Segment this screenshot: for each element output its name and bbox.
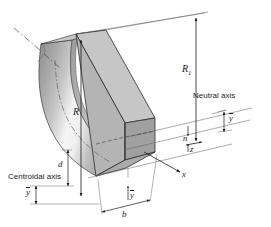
label-y-right-letter: y bbox=[229, 113, 233, 123]
label-d: d bbox=[58, 160, 63, 169]
dimension-ybar-left bbox=[30, 186, 100, 204]
label-n: n bbox=[183, 134, 187, 143]
label-z: z bbox=[190, 145, 193, 154]
axis-x-arrow bbox=[144, 152, 180, 172]
label-R1: R1 bbox=[182, 64, 192, 77]
label-ybar-bottom: y bbox=[130, 191, 134, 200]
label-ybar-bottom-letter: y bbox=[130, 190, 134, 200]
label-x: x bbox=[182, 170, 186, 179]
leader-top-inner bbox=[76, 13, 205, 34]
label-y-right: y bbox=[229, 114, 233, 123]
label-neutral-axis: Neutral axis bbox=[193, 92, 235, 100]
label-b: b bbox=[122, 210, 127, 219]
label-centroidal-axis: Centroidal axis bbox=[8, 173, 61, 181]
curved-beam-figure: R1 R Neutral axis Centroidal axis n z x … bbox=[0, 0, 271, 227]
label-ybar-left: y bbox=[26, 188, 30, 197]
axis-z-arrow bbox=[186, 142, 202, 145]
label-ybar-left-letter: y bbox=[26, 187, 30, 197]
label-R: R bbox=[73, 107, 79, 117]
label-R1-subscript: 1 bbox=[188, 69, 191, 76]
